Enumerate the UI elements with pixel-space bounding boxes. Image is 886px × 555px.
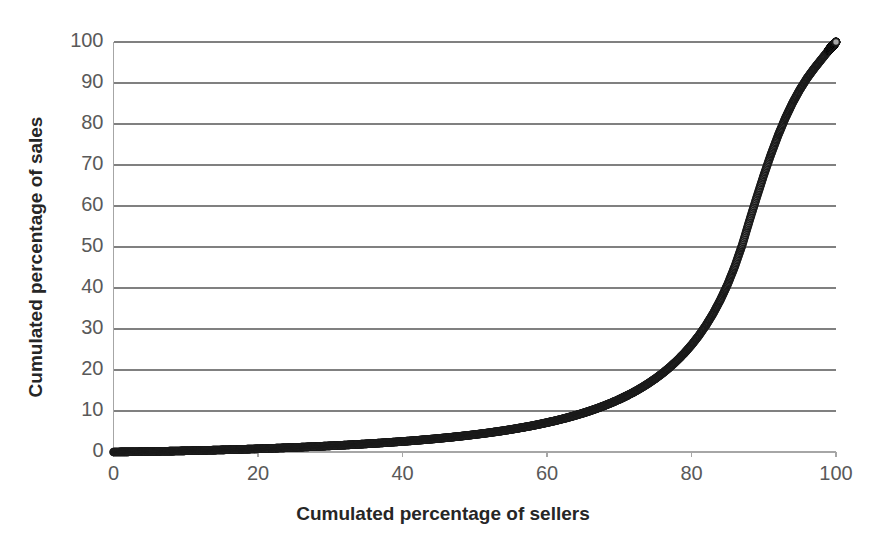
y-tick-label: 60 — [44, 193, 104, 216]
y-tick-label: 100 — [44, 29, 104, 52]
y-tick-label: 30 — [44, 316, 104, 339]
chart-container: 1009080706050403020100 020406080100 Cumu… — [0, 0, 886, 555]
axis-lines-group — [114, 42, 837, 457]
x-tick-label: 60 — [517, 462, 577, 485]
x-tick-label: 100 — [806, 462, 866, 485]
gridlines-group — [114, 42, 837, 411]
y-tick-label: 90 — [44, 70, 104, 93]
y-tick-label: 10 — [44, 398, 104, 421]
data-point — [833, 39, 840, 46]
y-tick-label: 50 — [44, 234, 104, 257]
y-tick-label: 0 — [44, 439, 104, 462]
x-axis-title: Cumulated percentage of sellers — [0, 503, 886, 525]
y-tick-label: 20 — [44, 357, 104, 380]
x-tick-label: 20 — [228, 462, 288, 485]
y-axis-title: Cumulated percentage of sales — [25, 57, 47, 457]
x-tick-label: 80 — [662, 462, 722, 485]
y-tick-label: 80 — [44, 111, 104, 134]
y-tick-label: 40 — [44, 275, 104, 298]
x-tick-label: 0 — [84, 462, 144, 485]
y-tick-label: 70 — [44, 152, 104, 175]
x-tick-label: 40 — [373, 462, 433, 485]
